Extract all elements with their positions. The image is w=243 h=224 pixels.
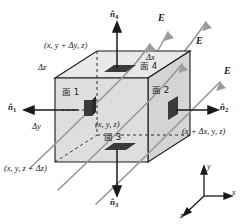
field-label-middle: E bbox=[196, 36, 203, 46]
axis-label-z: z bbox=[180, 212, 183, 220]
axis-triad-layer bbox=[0, 0, 243, 224]
label-corner-right: (x + Δx, y, z) bbox=[182, 127, 225, 136]
normal-label-1: n̂1 bbox=[8, 103, 16, 113]
axis-x-head bbox=[224, 193, 232, 199]
label-corner-top-back: (x, y + Δy, z) bbox=[44, 41, 87, 50]
label-delta-y: Δy bbox=[32, 122, 41, 131]
normal-4-hat: n̂ bbox=[110, 9, 115, 19]
face-label-1: 面 1 bbox=[62, 88, 79, 97]
field-label-bottom: E bbox=[224, 66, 231, 76]
label-delta-z: Δz bbox=[38, 63, 46, 72]
normal-2-hat: n̂ bbox=[220, 102, 225, 112]
normal-label-2: n̂2 bbox=[220, 103, 228, 113]
normal-1-hat: n̂ bbox=[8, 102, 13, 112]
axis-label-y: y bbox=[207, 163, 211, 171]
normal-label-3: n̂3 bbox=[110, 198, 118, 208]
figure-canvas: (x, y + Δy, z) Δz Δx Δy (x, y, z) (x + Δ… bbox=[0, 0, 243, 224]
normal-2-subscript: 2 bbox=[225, 106, 228, 113]
normal-3-subscript: 3 bbox=[115, 201, 118, 208]
normal-4-subscript: 4 bbox=[115, 13, 118, 20]
field-label-top: E bbox=[158, 13, 165, 23]
normal-3-hat: n̂ bbox=[110, 197, 115, 207]
face-label-4: 面 4 bbox=[140, 62, 157, 71]
normal-1-subscript: 1 bbox=[13, 106, 16, 113]
label-corner-bottom-left: (x, y, z + Δz) bbox=[4, 164, 47, 173]
face-label-2: 面 2 bbox=[152, 86, 169, 95]
normal-label-4: n̂4 bbox=[110, 10, 118, 20]
face-label-3: 面 3 bbox=[104, 133, 121, 142]
label-corner-center: (x, y, z) bbox=[95, 120, 120, 129]
axis-label-x: x bbox=[232, 189, 236, 197]
